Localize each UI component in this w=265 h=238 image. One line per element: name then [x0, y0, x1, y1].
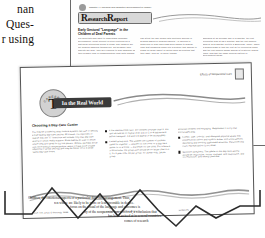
research-column-1-text: For scientists who want to understand la… [78, 37, 135, 54]
page-number-box [235, 68, 244, 79]
square-bullet-icon [178, 137, 180, 139]
realworld-bullet-mid-1: A low teacher/child ratio. For children … [109, 128, 171, 138]
square-bullet-icon [178, 151, 180, 153]
realworld-article-headline: Choosing a Day-Care Center [32, 122, 94, 128]
realworld-bullet-mid-2: A small group size. The smaller the numb… [109, 139, 172, 158]
realworld-banner: In the Real World [53, 97, 111, 108]
research-chapter-header: Chapter 4 • Physical and Cognitive Devel… [79, 3, 259, 12]
research-column-3-text: appeared at an average age of 8 months, … [203, 37, 260, 57]
chapter-header-text: Chapter 4 • Physical and Cognitive Devel… [89, 6, 152, 9]
realworld-section-header-text: Effects of Nonparental Care [200, 73, 232, 77]
square-bullet-icon [105, 141, 107, 143]
square-bullet-icon [105, 130, 107, 132]
realworld-bullet-right-0: activities children find engaging. Suppl… [178, 126, 244, 133]
banner-dropcap-r1: R [81, 13, 88, 23]
research-swoosh-decoration [153, 13, 261, 24]
left-fragment-line-3: r using [0, 32, 34, 47]
scan-canvas: nan Ques- r using Chapter 4 • Physical a… [0, 0, 265, 238]
realworld-columns: You may be wondering what criteria a par… [32, 126, 245, 191]
banner-dropcap-r2: R [107, 13, 114, 23]
banner-word-report: eport [114, 15, 128, 22]
list-item: A clean, safe, colorful, well-designed p… [178, 135, 244, 148]
chapter-number-icon [79, 4, 86, 11]
research-column-2-text: can attest the age comes with gestures a… [140, 37, 197, 54]
research-article-headline: Early Gestural "Language" in the Childre… [78, 28, 128, 37]
realworld-column-1-text: You may be wondering what criteria a par… [32, 129, 98, 154]
realworld-bullet-right-2: Sensitive caregivers. The adults in the … [182, 149, 244, 159]
list-item: Sensitive caregivers. The adults in the … [178, 149, 244, 159]
list-item: A low teacher/child ratio. For children … [105, 128, 171, 138]
research-report-banner: ResearchReport [78, 12, 152, 24]
realworld-swoosh-decoration [113, 89, 245, 110]
realworld-column-3: activities children find engaging. Suppl… [178, 126, 245, 188]
left-fragment-line-2: Ques- [0, 17, 34, 32]
banner-word-research: esearch [88, 15, 107, 22]
summary-text-block: Children, the emotional aspects of a par… [28, 196, 208, 224]
realworld-bullet-right-1: A clean, safe, colorful, well-designed p… [182, 135, 244, 148]
realworld-column-1: You may be wondering what criteria a par… [32, 129, 99, 191]
list-item: A small group size. The smaller the numb… [105, 139, 171, 158]
left-fragment-line-1: nan [0, 2, 34, 17]
left-page-text-fragment: nan Ques- r using [0, 2, 34, 47]
summary-line-6: comes of research [124, 219, 208, 224]
research-report-banner-label: ResearchReport [81, 13, 128, 23]
realworld-banner-label: In the Real World [62, 99, 103, 106]
realworld-section-header: Effects of Nonparental Care [200, 68, 244, 80]
realworld-column-2: A low teacher/child ratio. For children … [105, 128, 172, 190]
